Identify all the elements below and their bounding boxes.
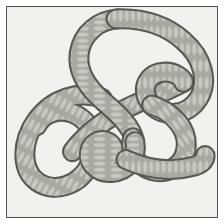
figure-root: Grayscale drawing of a long segmented ro… (0, 0, 224, 224)
picture-frame: Grayscale drawing of a long segmented ro… (6, 6, 218, 218)
rope-illustration: Grayscale drawing of a long segmented ro… (7, 7, 217, 217)
